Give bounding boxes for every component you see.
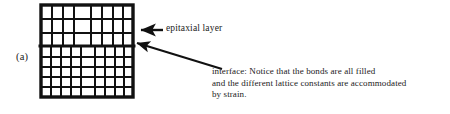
- panel-label-a: (a): [16, 51, 28, 62]
- epitaxial-layer-figure: (a) epitaxial layer interface: Notice th…: [0, 0, 450, 114]
- interface-note-line-2: and the different lattice constants are …: [212, 78, 406, 90]
- epitaxial-layer-label: epitaxial layer: [166, 23, 222, 33]
- interface-note-line-1: interface: Notice that the bonds are all…: [212, 66, 406, 78]
- interface-arrow: [137, 43, 222, 69]
- interface-note: interface: Notice that the bonds are all…: [212, 66, 406, 101]
- substrate-lattice-cells: [41, 46, 133, 97]
- interface-note-line-3: by strain.: [212, 89, 406, 101]
- epitaxial-lattice-cells: [41, 5, 133, 46]
